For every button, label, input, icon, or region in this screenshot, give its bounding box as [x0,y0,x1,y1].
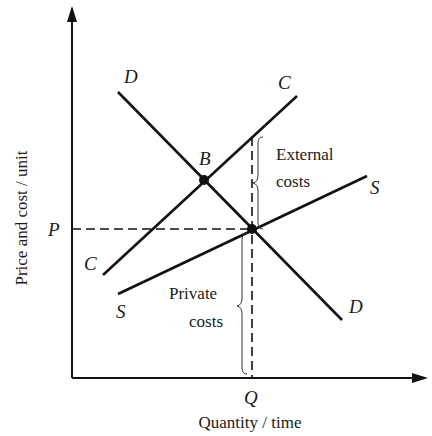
point-b-label: B [199,148,211,169]
external-costs-label-line2: costs [276,172,310,191]
private-costs-label-line2: costs [189,312,223,331]
externality-diagram: D D C C S S B P Q External costs Private… [0,0,432,436]
supply-label-top: S [370,177,380,198]
price-tick-label: P [47,219,60,240]
point-b-marker [199,175,209,185]
social-cost-label-bottom: C [84,253,97,274]
demand-label-bottom: D [348,296,363,317]
social-cost-curve [103,96,297,275]
x-axis-arrow-icon [412,373,428,383]
private-costs-brace [237,233,247,374]
demand-curve [118,92,342,320]
social-cost-label-top: C [278,72,291,93]
external-costs-label-line1: External [276,145,334,164]
external-costs-brace [253,137,263,229]
equilibrium-marker [247,224,257,234]
supply-label-bottom: S [116,301,126,322]
x-axis [72,373,428,383]
x-axis-title: Quantity / time [199,413,302,432]
y-axis [67,6,77,378]
quantity-tick-label: Q [244,387,258,408]
y-axis-title: Price and cost / unit [12,150,31,285]
y-axis-arrow-icon [67,6,77,22]
demand-label-top: D [123,66,138,87]
private-costs-label-line1: Private [169,284,217,303]
